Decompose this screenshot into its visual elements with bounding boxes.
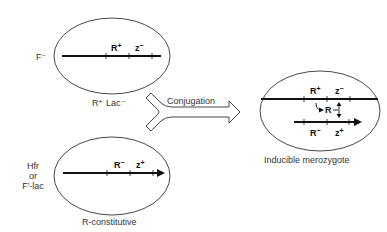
repressor-label: R xyxy=(325,105,332,115)
bottom-gene-z: z+ xyxy=(136,158,145,170)
merozygote-lower-arrowhead xyxy=(354,118,362,126)
merozygote-upper-gene-r: R+ xyxy=(310,84,321,96)
conjugation-diagram: F⁻ R+ z− R⁺ Lac⁻ Hfr or F′-lac R− z+ R-c… xyxy=(0,0,387,232)
merozygote-caption: Inducible merozygote xyxy=(264,155,350,165)
top-gene-z: z− xyxy=(135,41,144,53)
merozygote-upper-gene-z: z− xyxy=(335,84,344,96)
top-gene-r: R+ xyxy=(111,41,122,53)
top-strain-label: F⁻ xyxy=(36,52,47,62)
merozygote-lower-gene-r: R− xyxy=(310,126,321,138)
top-cell-caption: R⁺ Lac⁻ xyxy=(92,98,126,108)
bottom-cell-caption: R-constitutive xyxy=(82,217,137,227)
bottom-strain-label: Hfr or F′-lac xyxy=(20,161,46,191)
bottom-gene-r: R− xyxy=(114,158,125,170)
diagram-graphics xyxy=(0,0,387,232)
conjugation-label: Conjugation xyxy=(167,96,215,106)
bottom-chromosome-arrowhead xyxy=(157,169,165,177)
merozygote-lower-gene-z: z+ xyxy=(335,126,344,138)
